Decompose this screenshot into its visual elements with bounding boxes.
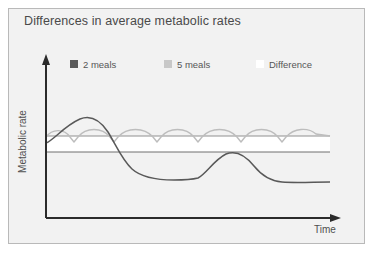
difference-band	[46, 136, 330, 152]
chart-figure: Differences in average metabolic rates 2…	[0, 0, 375, 253]
chart-plot-area: Metabolic rate Time	[8, 8, 365, 244]
y-axis-arrow-icon	[42, 54, 50, 65]
y-axis-label: Metabolic rate	[17, 92, 28, 192]
x-axis-label: Time	[314, 224, 336, 235]
x-axis-arrow-icon	[330, 214, 341, 222]
chart-svg	[8, 8, 365, 244]
